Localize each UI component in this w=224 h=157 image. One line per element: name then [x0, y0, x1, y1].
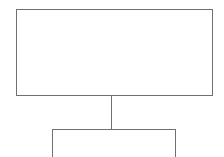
connector-line — [111, 95, 112, 130]
diagram-node-top — [16, 9, 213, 96]
diagram-node-bottom — [52, 129, 176, 157]
